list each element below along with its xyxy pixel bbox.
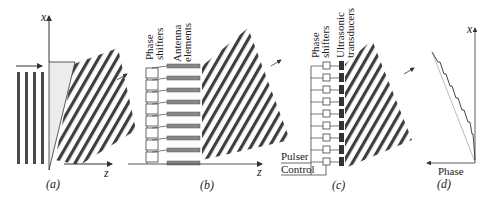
caption-d: (d) (437, 177, 451, 191)
steered-wavefronts-c (345, 40, 412, 168)
antenna-elements-label-2: elements (181, 23, 193, 62)
beam-direction-arrow-c (404, 68, 414, 74)
pulser-label: Pulser (281, 150, 309, 162)
z-axis-label-b: z (256, 165, 262, 179)
z-axis-label: z (103, 166, 109, 180)
phase-axis-label: Phase (438, 165, 464, 177)
phase-profile-linear (432, 52, 475, 162)
transducers-label-2: transducers (344, 8, 356, 58)
panel-a: x z (a) (13, 10, 136, 191)
beam-steering-figure: x z (a) Phase shifters Antenna elements (0, 0, 486, 200)
caption-c: (c) (332, 178, 345, 192)
caption-a: (a) (46, 177, 60, 191)
steered-wavefronts-b (202, 28, 290, 160)
phase-shifters-label-c2: shifters (319, 26, 331, 58)
panel-c: Phase shifters Ultrasonic transducers Pu… (281, 8, 414, 192)
antenna-array (146, 64, 200, 165)
caption-b: (b) (200, 178, 214, 192)
control-label: Control (281, 163, 315, 175)
phase-shifters-label-2: shifters (153, 28, 165, 60)
panel-b: Phase shifters Antenna elements z (b) (128, 23, 290, 192)
incident-wavefronts (13, 72, 49, 164)
x-axis-label-d: x (466, 22, 473, 36)
transducer-array (311, 61, 344, 166)
panel-d: x Phase (d) (427, 22, 475, 191)
x-axis-label: x (40, 10, 47, 24)
beam-direction-arrow-b (271, 60, 281, 66)
